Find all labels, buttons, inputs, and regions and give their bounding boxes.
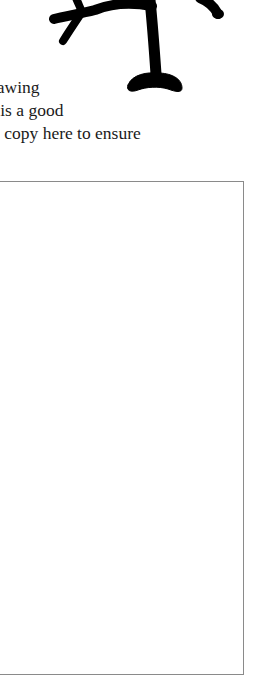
body-text: rawing t is a good l copy here to ensure <box>0 76 141 145</box>
text-line-2: t is a good <box>0 99 141 122</box>
text-line-3: l copy here to ensure <box>0 122 141 145</box>
drawing-box[interactable] <box>0 181 244 675</box>
text-line-1: rawing <box>0 76 141 99</box>
